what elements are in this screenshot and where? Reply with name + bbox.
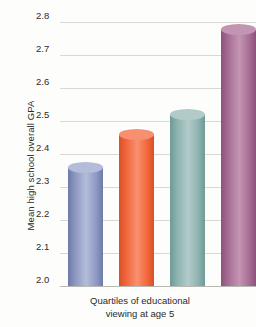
x-axis-title-line2: viewing at age 5 — [40, 307, 240, 320]
y-axis-tick-label: 2.7 — [36, 43, 58, 54]
gpa-bar-chart: Mean high school overall GPA 2.82.72.62.… — [0, 0, 256, 327]
x-axis-title-line1: Quartiles of educational — [40, 294, 240, 307]
gridline — [60, 22, 256, 23]
y-axis-tick-label: 2.8 — [36, 10, 58, 21]
y-axis-tick-label: 2.5 — [36, 109, 58, 120]
x-axis-title: Quartiles of educational viewing at age … — [40, 294, 240, 320]
bar-body — [119, 134, 154, 286]
bar-body — [68, 167, 103, 286]
plot-area — [60, 22, 256, 286]
bar-top-cap — [221, 24, 256, 35]
y-axis-title: Mean high school overall GPA — [25, 66, 36, 266]
y-axis-tick-label: 2.4 — [36, 142, 58, 153]
bar — [170, 114, 205, 286]
y-axis-tick-label: 2.3 — [36, 175, 58, 186]
bar — [119, 134, 154, 286]
y-axis-tick-label: 2.1 — [36, 241, 58, 252]
bar — [221, 29, 256, 286]
y-axis-tick-label: 2.0 — [36, 274, 58, 285]
bar-body — [221, 29, 256, 286]
y-axis-tick-label: 2.2 — [36, 208, 58, 219]
bar — [68, 167, 103, 286]
y-axis-tick-label: 2.6 — [36, 76, 58, 87]
bar-body — [170, 114, 205, 286]
gridline — [60, 286, 256, 287]
